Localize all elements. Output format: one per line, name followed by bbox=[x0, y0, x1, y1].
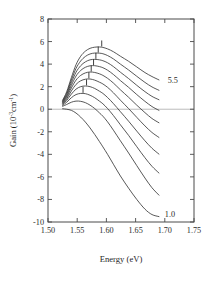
plot-frame bbox=[48, 19, 194, 222]
gain-curve-3-0 bbox=[63, 79, 159, 137]
y-tick-label-4: -2 bbox=[37, 128, 44, 137]
curve-label-bottom: 1.0 bbox=[165, 210, 175, 219]
y-axis-title: Gain (10-3cm-1) bbox=[8, 94, 18, 147]
x-axis-title: Energy (eV) bbox=[100, 254, 143, 264]
y-tick-label-5: 0 bbox=[40, 105, 44, 114]
chart-svg: 1.501.551.601.651.701.75-10-8-6-4-202468… bbox=[0, 0, 212, 282]
y-tick-label-2: -6 bbox=[37, 173, 44, 182]
x-tick-label-2: 1.60 bbox=[99, 226, 113, 235]
curve-label-top: 5.5 bbox=[168, 76, 178, 85]
x-tick-label-4: 1.70 bbox=[158, 226, 172, 235]
gain-curve-5-5 bbox=[63, 47, 159, 100]
y-tick-label-3: -4 bbox=[37, 150, 44, 159]
x-tick-label-5: 1.75 bbox=[187, 226, 201, 235]
gain-spectra-chart: 1.501.551.601.651.701.75-10-8-6-4-202468… bbox=[0, 0, 212, 282]
y-tick-label-6: 2 bbox=[40, 83, 44, 92]
x-tick-label-0: 1.50 bbox=[41, 226, 55, 235]
y-tick-label-8: 6 bbox=[40, 38, 44, 47]
y-tick-label-1: -8 bbox=[37, 195, 44, 204]
y-tick-label-7: 4 bbox=[40, 60, 44, 69]
y-tick-label-0: -10 bbox=[33, 218, 44, 227]
x-tick-label-3: 1.65 bbox=[128, 226, 142, 235]
gain-curve-2-0 bbox=[63, 93, 159, 173]
y-axis-title-text: Gain (10-3cm-1) bbox=[8, 94, 18, 147]
y-tick-label-9: 8 bbox=[40, 15, 44, 24]
x-tick-label-1: 1.55 bbox=[70, 226, 84, 235]
gain-curve-1-5 bbox=[63, 101, 159, 195]
gain-curve-2-5 bbox=[63, 86, 159, 154]
gain-curve-3-5 bbox=[63, 72, 159, 123]
